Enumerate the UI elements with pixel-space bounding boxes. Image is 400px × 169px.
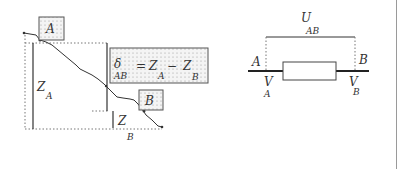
svg-text:U: U — [301, 11, 312, 25]
svg-text:AB: AB — [113, 71, 127, 81]
node-b-label: B — [358, 53, 368, 67]
node-a-label: A — [251, 55, 261, 69]
svg-text:B: B — [191, 72, 199, 82]
profile-start-dot — [23, 32, 26, 35]
resistor — [283, 62, 336, 80]
svg-text:V: V — [264, 75, 274, 89]
potential-b-label: V B — [349, 75, 360, 97]
potential-a-label: V A — [263, 75, 274, 99]
point-b-box: B — [139, 90, 163, 110]
svg-text:Z: Z — [148, 59, 158, 73]
svg-text:δ: δ — [114, 57, 121, 71]
svg-text:AB: AB — [305, 26, 319, 36]
point-b-label: B — [144, 94, 154, 108]
voltage-label: U AB — [301, 11, 319, 36]
svg-text:−: − — [167, 59, 177, 73]
svg-text:Z: Z — [36, 80, 46, 94]
point-a-label: A — [45, 22, 55, 36]
svg-text:A: A — [157, 71, 165, 81]
svg-text:B: B — [126, 132, 134, 142]
svg-text:Z: Z — [182, 59, 192, 73]
svg-text:A: A — [45, 91, 53, 101]
point-a-box: A — [39, 17, 64, 40]
svg-text:A: A — [263, 89, 271, 99]
height-b-label: Z B — [117, 114, 134, 142]
svg-text:B: B — [352, 87, 360, 97]
formula-box: δ AB = Z A − Z B — [110, 48, 208, 83]
diagram-canvas: A B Z A Z B δ AB = Z A − Z B — [0, 0, 400, 169]
height-a-label: Z A — [36, 80, 53, 101]
right-border-line — [396, 0, 397, 169]
profile-end-dot — [161, 126, 164, 129]
profile-mid-dot — [105, 85, 107, 87]
height-difference-diagram: A B Z A Z B δ AB = Z A − Z B — [23, 17, 208, 142]
svg-text:Z: Z — [117, 114, 127, 128]
svg-text:=: = — [136, 59, 146, 73]
resistor-circuit-diagram: U AB A B V A V B — [248, 11, 369, 99]
